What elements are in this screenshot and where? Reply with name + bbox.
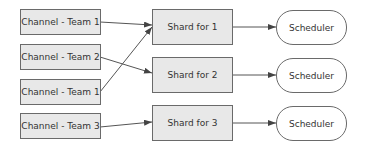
scheduler-node: Scheduler — [276, 58, 347, 93]
channel-node: Channel - Team 2 — [20, 44, 101, 70]
shard-node: Shard for 3 — [152, 105, 233, 141]
channel-node: Channel - Team 1 — [20, 9, 101, 35]
shard-node: Shard for 1 — [152, 9, 233, 45]
shard-node: Shard for 2 — [152, 57, 233, 93]
scheduler-node: Scheduler — [276, 10, 347, 45]
edge-channel1-to-shard1 — [100, 22, 152, 25]
channel-node: Channel - Team 1 — [20, 79, 101, 105]
edge-channel3-to-shard3 — [100, 122, 152, 127]
scheduler-node: Scheduler — [276, 106, 347, 141]
channel-node: Channel - Team 3 — [20, 113, 101, 139]
